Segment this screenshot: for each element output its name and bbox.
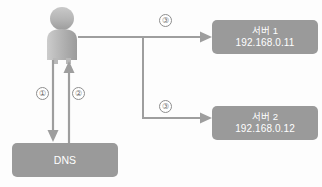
person-icon <box>47 7 77 64</box>
connector-step3b <box>142 113 212 124</box>
connector-step2 <box>64 61 75 143</box>
step-label-1: ① <box>36 87 49 100</box>
node-dns: DNS <box>12 143 118 177</box>
connector-step3a <box>78 32 212 43</box>
node-server1-ip: 192.168.0.11 <box>236 37 295 49</box>
node-server1-title: 서버 1 <box>252 25 278 37</box>
node-server1: 서버 1 192.168.0.11 <box>212 20 318 54</box>
node-dns-title: DNS <box>54 154 76 167</box>
step-label-2: ② <box>72 87 85 100</box>
dns-flow-diagram: 서버 1 192.168.0.11 서버 2 192.168.0.12 DNS … <box>0 0 322 187</box>
connector-step1 <box>48 60 59 142</box>
node-server2-title: 서버 2 <box>252 111 278 123</box>
step-label-3b: ③ <box>159 100 172 113</box>
step-label-3a: ③ <box>159 14 172 27</box>
node-server2-ip: 192.168.0.12 <box>235 123 295 135</box>
node-server2: 서버 2 192.168.0.12 <box>212 106 318 140</box>
